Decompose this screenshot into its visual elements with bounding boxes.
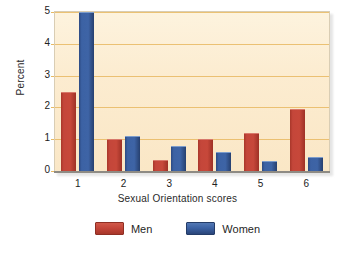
bar-women-4 — [216, 152, 231, 171]
legend-swatch-men-icon — [95, 222, 124, 235]
bar-women-5 — [262, 161, 277, 171]
legend-item-women[interactable]: Women — [186, 222, 260, 235]
bar-women-3 — [171, 146, 186, 171]
y-axis-label: Percent — [15, 48, 26, 108]
y-axis-tick-labels: 012345 — [26, 11, 50, 172]
y-tick-label: 3 — [28, 69, 50, 80]
gridline — [55, 139, 329, 140]
y-tick-label: 2 — [28, 100, 50, 111]
x-axis-tick-labels: 123456 — [54, 172, 330, 190]
legend-swatch-women-icon — [186, 222, 215, 235]
x-tick-label: 1 — [63, 178, 93, 189]
bar-women-6 — [308, 157, 323, 171]
x-tick-label: 5 — [246, 178, 276, 189]
bar-men-3 — [153, 160, 168, 171]
gridline — [55, 76, 329, 77]
bar-chart-figure: Percent 012345 123456 Sexual Orientation… — [0, 0, 355, 253]
bar-women-1 — [79, 12, 94, 171]
x-tick-label: 6 — [291, 178, 321, 189]
x-tick-label: 3 — [154, 178, 184, 189]
bar-men-4 — [198, 139, 213, 171]
legend-label-men: Men — [131, 223, 152, 235]
gridline — [55, 12, 329, 13]
y-tick-label: 4 — [28, 37, 50, 48]
legend-label-women: Women — [222, 223, 260, 235]
x-tick-label: 2 — [109, 178, 139, 189]
bar-men-6 — [290, 109, 305, 171]
y-tick-label: 1 — [28, 132, 50, 143]
y-tick-label: 0 — [28, 164, 50, 175]
bar-men-1 — [61, 92, 76, 172]
gridline — [55, 44, 329, 45]
legend-item-men[interactable]: Men — [95, 222, 152, 235]
x-tick-label: 4 — [200, 178, 230, 189]
chart-legend: Men Women — [0, 222, 355, 235]
bar-women-2 — [125, 136, 140, 171]
plot-area — [54, 11, 330, 172]
gridline — [55, 107, 329, 108]
plot-inner — [55, 12, 329, 171]
bar-men-2 — [107, 139, 122, 171]
y-tick-label: 5 — [28, 5, 50, 16]
bar-men-5 — [244, 133, 259, 171]
x-axis-label: Sexual Orientation scores — [0, 193, 355, 204]
